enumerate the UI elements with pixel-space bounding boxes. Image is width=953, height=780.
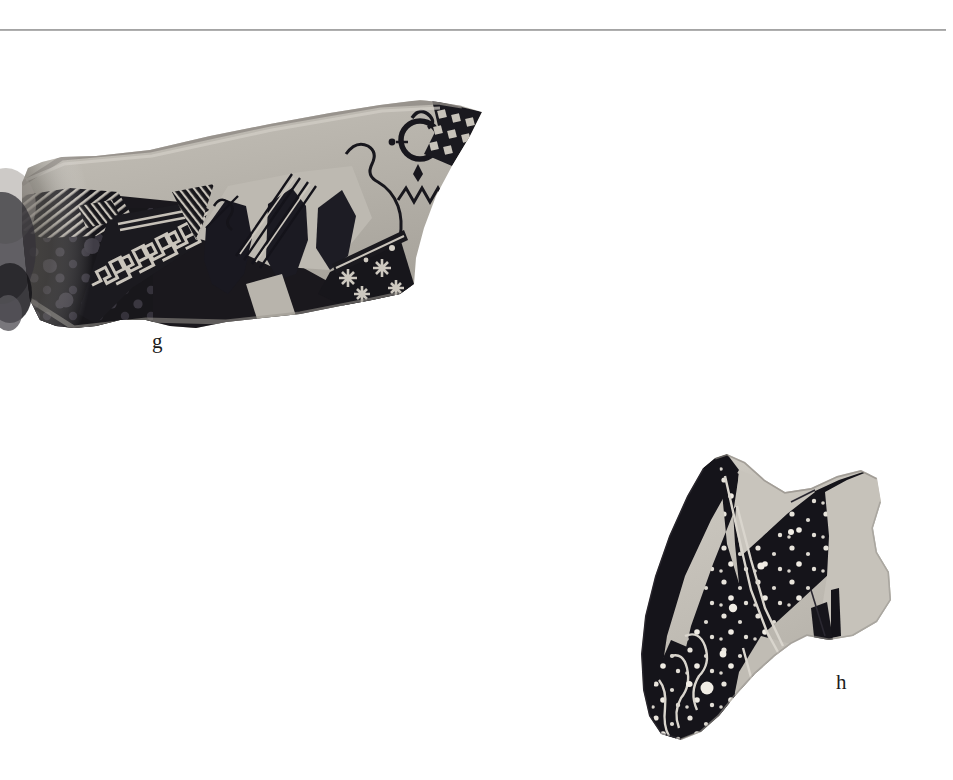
figure-label-g: g	[152, 331, 163, 352]
photo-shadow-left	[0, 168, 36, 331]
header-divider-rule	[0, 29, 946, 31]
sherd-g-body	[0, 88, 500, 338]
pottery-sherd-g	[0, 88, 500, 338]
eye-dot	[389, 139, 396, 146]
plate-page: g	[0, 0, 953, 780]
sherd-h-body	[615, 440, 915, 755]
pottery-sherd-h	[615, 440, 915, 755]
figure-label-h: h	[836, 672, 847, 693]
